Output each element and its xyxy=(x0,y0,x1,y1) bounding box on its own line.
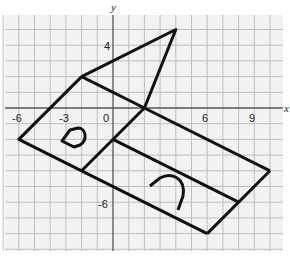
y-tick-neg6: -6 xyxy=(98,198,108,210)
y-axis-label: y xyxy=(110,1,116,13)
x-tick-neg6: -6 xyxy=(12,112,22,124)
coordinate-grid-diagram: y x -6 -3 0 6 9 4 -6 xyxy=(0,0,290,259)
y-tick-4: 4 xyxy=(104,40,110,52)
x-tick-9: 9 xyxy=(249,112,255,124)
x-tick-6: 6 xyxy=(202,112,208,124)
x-axis-label: x xyxy=(283,102,289,114)
x-tick-neg3: -3 xyxy=(59,112,69,124)
x-tick-0: 0 xyxy=(103,112,109,124)
